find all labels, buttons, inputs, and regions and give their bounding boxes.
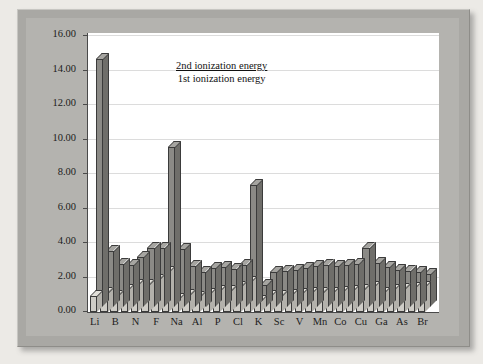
bar-side-face — [359, 258, 365, 306]
bar-side-face — [431, 268, 437, 306]
y-axis-tick-label: 2.00 — [58, 271, 76, 281]
y-axis-tick-label: 14.00 — [52, 64, 76, 74]
y-axis-tick-label: 12.00 — [52, 98, 76, 108]
y-axis-tick-label: 16.00 — [52, 29, 76, 39]
bar-side-face — [134, 259, 140, 306]
bar-side-face — [124, 258, 130, 306]
x-axis-tick-label: Na — [171, 316, 183, 327]
bar-side-face — [400, 264, 406, 306]
bar-side-face — [114, 245, 120, 306]
chart-root: 0.002.004.006.008.0010.0012.0014.0016.00… — [0, 0, 483, 364]
bar-side-face — [298, 264, 304, 306]
y-axis: 0.002.004.006.008.0010.0012.0014.0016.00 — [18, 10, 86, 336]
plot-area: 2nd ionization energy 1st ionization ene… — [87, 33, 439, 313]
legend-item-second-ionization: 2nd ionization energy — [174, 59, 269, 72]
y-axis-tick-label: 10.00 — [52, 133, 76, 143]
x-axis-tick-label: Li — [90, 316, 99, 327]
x-axis-tick-label: Cl — [233, 316, 243, 327]
bar-side-face — [206, 266, 212, 307]
bar-side-face — [216, 262, 222, 306]
x-axis-tick-label: Br — [417, 316, 428, 327]
x-axis-tick-label: Sc — [274, 316, 285, 327]
bar-side-face — [165, 242, 171, 306]
x-axis-tick-label: P — [215, 316, 221, 327]
bar-side-face — [411, 265, 417, 306]
bar-side-face — [349, 259, 355, 306]
x-axis-tick-label: N — [132, 316, 140, 327]
x-axis-tick-label: Ga — [375, 316, 387, 327]
x-axis-tick-label: Co — [334, 316, 346, 327]
y-axis-tick-label: 0.00 — [58, 305, 76, 315]
bar-side-face — [390, 261, 396, 306]
chart-frame: 0.002.004.006.008.0010.0012.0014.0016.00… — [17, 9, 470, 347]
x-axis-tick-label: Al — [192, 316, 203, 327]
bar-side-face — [277, 266, 283, 306]
x-axis: LiBNFNaAlPClKScVMnCoCuGaAsBr — [87, 316, 439, 338]
bar-side-face — [308, 262, 314, 306]
bar-side-face — [103, 53, 109, 306]
y-axis-tick-label: 8.00 — [58, 167, 76, 177]
y-axis-tick-label: 4.00 — [58, 236, 76, 246]
x-axis-tick-label: F — [153, 316, 159, 327]
bar-side-face — [247, 259, 253, 306]
bar-second-ionization-Li — [96, 59, 103, 306]
x-axis-tick-label: B — [112, 316, 119, 327]
bar-side-face — [370, 242, 376, 306]
legend: 2nd ionization energy 1st ionization ene… — [174, 59, 269, 85]
bar-side-face — [257, 179, 263, 306]
bar-side-face — [288, 265, 294, 306]
bar-side-face — [318, 260, 324, 306]
bar-side-face — [237, 263, 243, 306]
bar-side-face — [175, 141, 181, 306]
x-axis-tick-label: Cu — [355, 316, 367, 327]
bar-side-face — [155, 242, 161, 306]
bar-first-ionization-Li — [90, 296, 97, 312]
bar-side-face — [329, 259, 335, 306]
bar-side-face — [421, 266, 427, 306]
x-axis-tick-label: K — [255, 316, 263, 327]
bar-side-face — [339, 260, 345, 306]
bar-side-face — [226, 261, 232, 306]
bar-side-face — [380, 257, 386, 306]
y-axis-tick-label: 6.00 — [58, 202, 76, 212]
bar-side-face — [196, 260, 202, 306]
legend-item-first-ionization: 1st ionization energy — [174, 72, 269, 85]
x-axis-tick-label: V — [296, 316, 304, 327]
bar-side-face — [144, 251, 150, 306]
bar-side-face — [185, 243, 191, 306]
x-axis-tick-label: As — [396, 316, 408, 327]
x-axis-tick-label: Mn — [313, 316, 328, 327]
